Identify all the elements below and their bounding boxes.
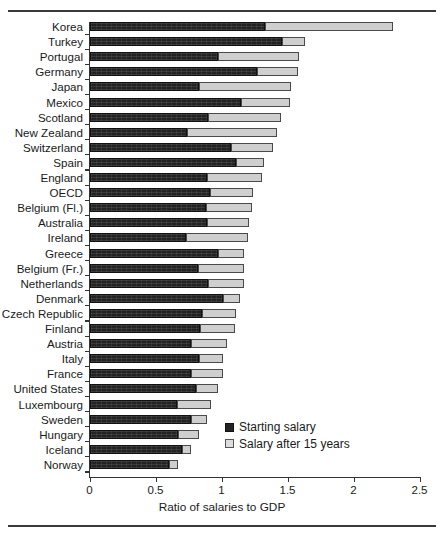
bar-row: [90, 445, 192, 454]
bar-row: [90, 249, 244, 258]
bar-segment-salary-after-15-years: [218, 52, 300, 61]
chart-legend: Starting salary Salary after 15 years: [225, 419, 350, 452]
bar-segment-salary-after-15-years: [257, 67, 298, 76]
bar-row: [90, 369, 223, 378]
bar-segment-starting-salary: [90, 324, 201, 333]
bar-row: [90, 415, 207, 424]
category-label: Scotland: [38, 112, 83, 124]
y-axis-tick: [85, 64, 90, 65]
bar-segment-salary-after-15-years: [177, 400, 211, 409]
legend-label-salary-after-15-years: Salary after 15 years: [239, 436, 350, 453]
bar-segment-starting-salary: [90, 52, 218, 61]
bar-segment-starting-salary: [90, 22, 266, 31]
bar-segment-salary-after-15-years: [202, 309, 236, 318]
bar-row: [90, 188, 254, 197]
bar-row: [90, 203, 252, 212]
category-label: Switzerland: [23, 142, 83, 154]
bar-segment-salary-after-15-years: [231, 143, 273, 152]
bar-row: [90, 128, 277, 137]
bar-row: [90, 52, 300, 61]
bar-segment-starting-salary: [90, 128, 188, 137]
x-axis-tick-label: 2.5: [412, 484, 428, 496]
bar-row: [90, 173, 263, 182]
y-axis-tick: [85, 411, 90, 412]
bar-segment-starting-salary: [90, 384, 197, 393]
bar-segment-starting-salary: [90, 82, 200, 91]
bar-segment-starting-salary: [90, 67, 258, 76]
category-label: Korea: [52, 21, 83, 33]
x-axis-tick: [156, 477, 157, 482]
bar-row: [90, 400, 211, 409]
y-axis-tick: [85, 366, 90, 367]
bar-segment-salary-after-15-years: [199, 82, 291, 91]
category-label: Norway: [44, 459, 83, 471]
y-axis-tick: [85, 94, 90, 95]
x-axis-tick: [420, 477, 421, 482]
y-axis-tick: [85, 79, 90, 80]
category-label: United States: [13, 383, 83, 395]
y-axis-tick: [85, 185, 90, 186]
category-label: Portugal: [40, 51, 83, 63]
y-axis-tick: [85, 351, 90, 352]
x-axis-tick-label: 1.5: [280, 484, 296, 496]
bar-segment-starting-salary: [90, 188, 210, 197]
bar-segment-starting-salary: [90, 279, 209, 288]
category-label: Germany: [35, 66, 83, 78]
bar-segment-salary-after-15-years: [198, 264, 244, 273]
bar-segment-salary-after-15-years: [208, 113, 281, 122]
category-label: Australia: [38, 217, 83, 229]
bar-row: [90, 22, 394, 31]
x-axis-tick: [288, 477, 289, 482]
bar-segment-starting-salary: [90, 203, 206, 212]
bar-row: [90, 218, 250, 227]
y-axis-tick: [85, 215, 90, 216]
bar-segment-starting-salary: [90, 233, 186, 242]
category-label: Turkey: [48, 36, 83, 48]
legend-swatch-light-icon: [225, 439, 234, 448]
bar-segment-starting-salary: [90, 113, 209, 122]
bar-segment-salary-after-15-years: [223, 294, 240, 303]
bar-segment-starting-salary: [90, 249, 218, 258]
bar-segment-salary-after-15-years: [265, 22, 393, 31]
category-label: Austria: [47, 338, 83, 350]
y-axis-tick: [85, 139, 90, 140]
bar-segment-starting-salary: [90, 98, 242, 107]
bar-row: [90, 309, 237, 318]
bar-row: [90, 67, 299, 76]
category-label: OECD: [50, 187, 84, 199]
bar-row: [90, 384, 218, 393]
category-label: Czech Republic: [2, 308, 83, 320]
x-axis-title: Ratio of salaries to GDP: [0, 500, 444, 514]
category-label: Greece: [45, 248, 83, 260]
y-axis-tick: [85, 426, 90, 427]
bar-segment-salary-after-15-years: [210, 188, 254, 197]
bar-segment-salary-after-15-years: [282, 37, 304, 46]
y-axis-tick: [85, 305, 90, 306]
y-axis-tick: [85, 245, 90, 246]
bar-row: [90, 158, 264, 167]
bar-segment-salary-after-15-years: [200, 324, 234, 333]
bar-segment-salary-after-15-years: [182, 445, 191, 454]
bar-row: [90, 279, 244, 288]
bar-segment-starting-salary: [90, 218, 207, 227]
bar-row: [90, 294, 240, 303]
bar-segment-salary-after-15-years: [207, 173, 262, 182]
chart-figure: 00.511.522.5 KoreaTurkeyPortugalGermanyJ…: [0, 0, 444, 535]
bar-segment-salary-after-15-years: [208, 279, 244, 288]
top-divider: [8, 10, 436, 12]
category-label: England: [40, 172, 83, 184]
y-axis-tick: [85, 230, 90, 231]
bar-segment-salary-after-15-years: [187, 128, 277, 137]
bar-segment-salary-after-15-years: [236, 158, 264, 167]
bar-row: [90, 37, 305, 46]
category-label: Japan: [51, 81, 83, 93]
y-axis-tick: [85, 396, 90, 397]
bar-row: [90, 113, 281, 122]
bar-segment-salary-after-15-years: [191, 339, 227, 348]
bar-segment-salary-after-15-years: [196, 384, 217, 393]
category-label: Luxembourg: [19, 399, 83, 411]
bar-segment-salary-after-15-years: [199, 354, 223, 363]
y-axis-tick: [85, 290, 90, 291]
category-label: Belgium (Fr.): [17, 263, 83, 275]
bar-segment-salary-after-15-years: [241, 98, 290, 107]
